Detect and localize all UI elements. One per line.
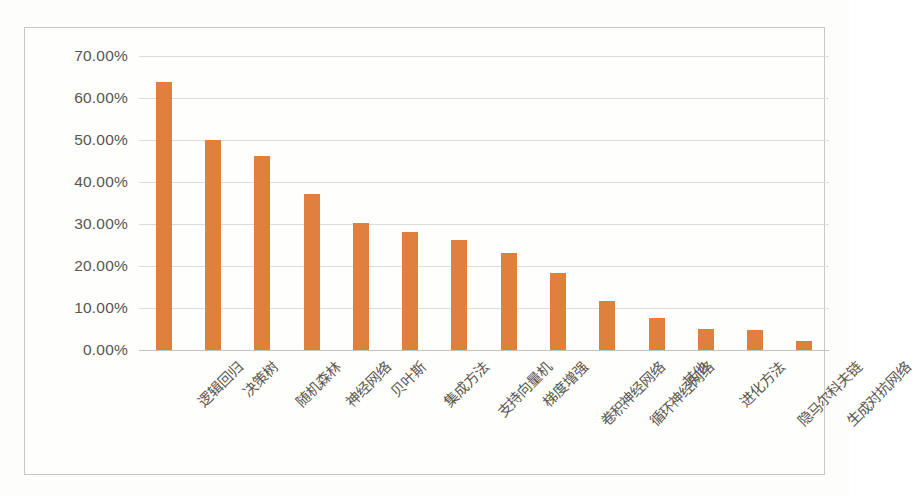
bar <box>205 140 221 350</box>
y-tick-label: 70.00% <box>32 47 128 65</box>
x-axis-category-labels: 逻辑回归决策树随机森林神经网络贝叶斯集成方法支持向量机梯度增强卷积神经网络循环神… <box>139 350 829 496</box>
y-tick-label: 10.00% <box>32 299 128 317</box>
bar <box>747 330 763 350</box>
bar <box>599 301 615 350</box>
bar <box>451 240 467 350</box>
y-tick-label: 20.00% <box>32 257 128 275</box>
plot-area: 70.00%60.00%50.00%40.00%30.00%20.00%10.0… <box>139 56 829 350</box>
x-axis-label: 进化方法 <box>734 356 788 410</box>
x-axis-label: 决策树 <box>237 356 282 401</box>
y-tick-label: 30.00% <box>32 215 128 233</box>
bar <box>796 341 812 350</box>
bar-series <box>139 56 829 350</box>
y-tick-label: 0.00% <box>32 341 128 359</box>
y-tick-label: 50.00% <box>32 131 128 149</box>
x-axis-label: 集成方法 <box>438 356 492 410</box>
bar <box>550 273 566 350</box>
bar <box>402 232 418 350</box>
bar <box>304 194 320 350</box>
bar <box>156 82 172 350</box>
y-tick-label: 40.00% <box>32 173 128 191</box>
bar <box>353 223 369 350</box>
x-axis-label: 随机森林 <box>291 356 345 410</box>
y-tick-label: 60.00% <box>32 89 128 107</box>
bar <box>254 156 270 350</box>
bar <box>698 329 714 350</box>
bar <box>501 253 517 350</box>
x-axis-label: 贝叶斯 <box>385 356 430 401</box>
chart-frame: 70.00%60.00%50.00%40.00%30.00%20.00%10.0… <box>24 27 825 475</box>
bar <box>649 318 665 350</box>
